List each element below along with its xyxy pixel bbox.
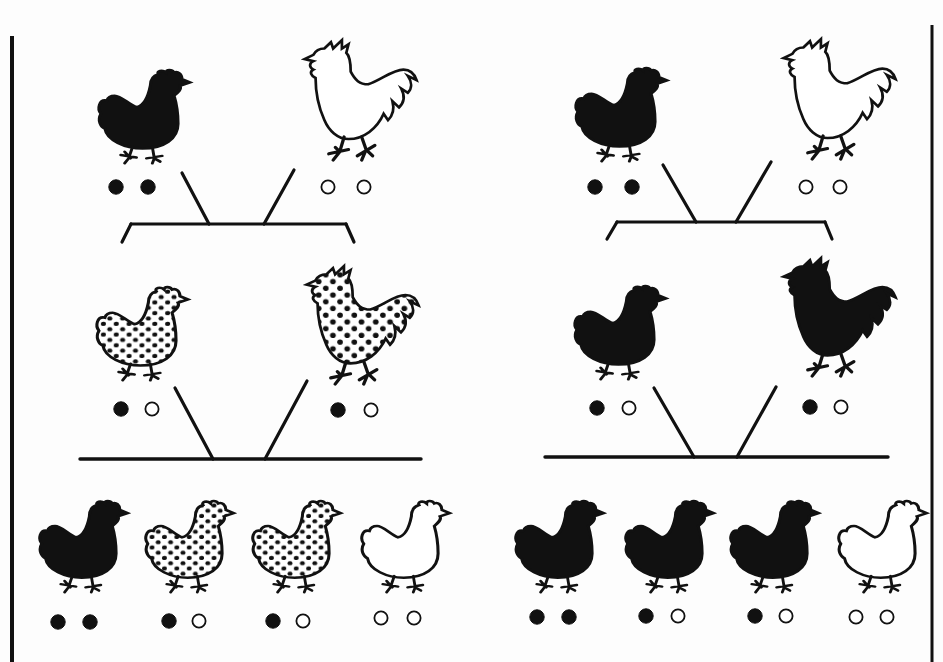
- filled-allele-dot: [266, 614, 280, 628]
- complete-dominance-cross-f2-hen-white-4: [839, 501, 927, 592]
- filled-allele-dot: [639, 609, 653, 623]
- incomplete-dominance-cross-parent-rooster-white: [305, 40, 417, 160]
- incomplete-dominance-cross-f1-line: [265, 381, 307, 459]
- open-allele-dot: [192, 614, 205, 627]
- incomplete-dominance-cross-f2-hen-black-1: [40, 501, 128, 592]
- filled-allele-dot: [625, 180, 639, 194]
- complete-dominance-cross-bracket-right-end: [825, 222, 832, 239]
- complete-dominance-cross-f1-hen-black: [575, 286, 666, 379]
- incomplete-dominance-cross-parent-hen-black: [99, 70, 190, 163]
- complete-dominance-cross-bracket-left-end: [607, 222, 617, 239]
- filled-allele-dot: [588, 180, 602, 194]
- incomplete-dominance-cross-f2-hen-white-4: [362, 501, 450, 592]
- open-allele-dot: [833, 180, 846, 193]
- open-allele-dot: [622, 401, 635, 414]
- open-allele-dot: [145, 402, 158, 415]
- filled-allele-dot: [803, 400, 817, 414]
- filled-allele-dot: [114, 402, 128, 416]
- filled-allele-dot: [51, 615, 65, 629]
- open-allele-dot: [880, 610, 893, 623]
- open-allele-dot: [671, 609, 684, 622]
- open-allele-dot: [407, 611, 420, 624]
- incomplete-dominance-cross-f2-hen-speckled-3: [253, 501, 341, 592]
- complete-dominance-cross-parent-line: [663, 165, 696, 222]
- incomplete-dominance-cross-f2-hen-speckled-2: [146, 501, 234, 592]
- complete-dominance-cross-parent-hen-black: [576, 68, 667, 161]
- complete-dominance-cross-f2-hen-black-3: [731, 501, 819, 592]
- complete-dominance-cross-f1-line: [737, 387, 776, 457]
- filled-allele-dot: [162, 614, 176, 628]
- filled-allele-dot: [141, 180, 155, 194]
- open-allele-dot: [321, 180, 334, 193]
- incomplete-dominance-cross-parent-line: [182, 173, 209, 224]
- filled-allele-dot: [109, 180, 123, 194]
- complete-dominance-cross-parent-rooster-white: [784, 39, 896, 159]
- genetics-cross-diagram: [0, 0, 943, 662]
- open-allele-dot: [779, 609, 792, 622]
- incomplete-dominance-cross-bracket-left-end: [122, 224, 131, 242]
- filled-allele-dot: [331, 403, 345, 417]
- incomplete-dominance-cross-f1-line: [175, 388, 213, 459]
- incomplete-dominance-cross-f1-rooster-speckled: [307, 266, 419, 384]
- filled-allele-dot: [530, 610, 544, 624]
- open-allele-dot: [799, 180, 812, 193]
- open-allele-dot: [849, 610, 862, 623]
- open-allele-dot: [296, 614, 309, 627]
- filled-allele-dot: [590, 401, 604, 415]
- complete-dominance-cross-parent-line: [736, 162, 771, 222]
- open-allele-dot: [834, 400, 847, 413]
- filled-allele-dot: [562, 610, 576, 624]
- complete-dominance-cross-f2-hen-black-1: [516, 501, 604, 592]
- filled-allele-dot: [83, 615, 97, 629]
- open-allele-dot: [374, 611, 387, 624]
- complete-dominance-cross-f1-rooster-black: [784, 258, 896, 376]
- filled-allele-dot: [748, 609, 762, 623]
- incomplete-dominance-cross-parent-line: [264, 170, 294, 224]
- open-allele-dot: [357, 180, 370, 193]
- complete-dominance-cross-f2-hen-black-2: [626, 501, 714, 592]
- complete-dominance-cross-f1-line: [654, 388, 694, 457]
- diagram-canvas: [0, 0, 943, 662]
- birds: [40, 39, 927, 592]
- open-allele-dot: [364, 403, 377, 416]
- incomplete-dominance-cross-f1-hen-speckled: [97, 287, 188, 380]
- incomplete-dominance-cross-bracket-right-end: [346, 224, 354, 242]
